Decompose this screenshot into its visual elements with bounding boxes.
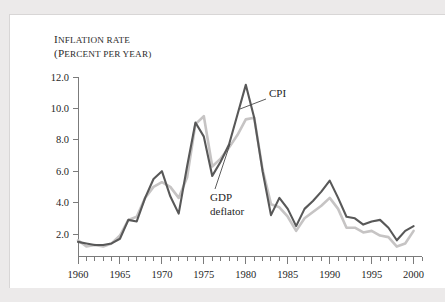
- x-tick-label: 1990: [319, 269, 340, 280]
- figure-root: INFLATION RATE (PERCENT PER YEAR) 12.010…: [0, 0, 445, 302]
- axis-title-line1: INFLATION RATE: [54, 33, 130, 45]
- series-line-cpi: [78, 85, 414, 245]
- gdp-deflator-label: GDPdeflator: [210, 191, 245, 217]
- x-tick-label: 1995: [361, 269, 382, 280]
- x-tick-label: 1960: [68, 269, 89, 280]
- x-tick-label: 1985: [277, 269, 298, 280]
- series-lines: [78, 85, 414, 247]
- y-tick-label: 12.0: [51, 72, 69, 83]
- gdp-deflator-label-line: GDP: [210, 191, 232, 203]
- axis-title-line2: (PERCENT PER YEAR): [54, 47, 151, 60]
- x-tick-label: 1975: [193, 269, 214, 280]
- y-axis: 12.010.08.06.04.02.0: [51, 72, 78, 257]
- y-tick-label: 4.0: [56, 197, 69, 208]
- y-tick-label: 6.0: [56, 166, 69, 177]
- x-axis: 196019651970197519801985199019952000: [68, 257, 425, 280]
- cpi-label-line: CPI: [269, 87, 286, 99]
- cpi-label-leader-line: [240, 99, 266, 109]
- y-tick-label: 10.0: [51, 103, 69, 114]
- axis-title-line2-first: (P: [54, 47, 64, 60]
- chart-panel: INFLATION RATE (PERCENT PER YEAR) 12.010…: [9, 14, 445, 288]
- annotations: CPIGDPdeflator: [210, 87, 286, 217]
- x-tick-label: 2000: [403, 269, 424, 280]
- axis-title-line1-rest: NFLATION RATE: [58, 35, 130, 45]
- x-tick-label: 1970: [151, 269, 172, 280]
- y-tick-label: 2.0: [56, 229, 69, 240]
- x-tick-label: 1965: [109, 269, 130, 280]
- y-tick-label: 8.0: [56, 134, 69, 145]
- axis-title: INFLATION RATE (PERCENT PER YEAR): [54, 33, 151, 60]
- x-tick-label: 1980: [235, 269, 256, 280]
- cpi-label: CPI: [269, 87, 286, 99]
- series-line-gdp-deflator: [78, 116, 414, 246]
- gdp-deflator-label-line: deflator: [210, 205, 245, 217]
- axis-title-line2-rest: ERCENT PER YEAR): [64, 49, 151, 59]
- inflation-rate-line-chart: INFLATION RATE (PERCENT PER YEAR) 12.010…: [10, 15, 445, 289]
